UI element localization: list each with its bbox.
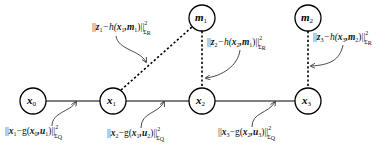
annotation-obs3: ||z3−h(x3,m2)||2ΣR [313,30,372,46]
annotation-mot2: ||x2−g(x1,u2)||2ΣQ [107,126,165,142]
pointer-obs2 [206,50,240,78]
factor-graph-diagram: x0 x1 x2 x3 m1 m2 ||z1−h(x1,m1)||2ΣR ||z… [0,0,383,152]
pointer-mot1 [52,102,76,126]
pointer-mot2 [141,102,164,128]
annotation-mot3: ||x3−g(x2,u3)||2ΣQ [218,125,276,141]
pointer-obs3 [311,45,343,66]
node-m2: m2 [295,5,321,31]
node-m1: m1 [189,5,215,31]
edge-x1-m1 [121,27,192,90]
pointer-obs1 [116,36,146,62]
node-x1: x1 [100,88,126,114]
annotation-obs2: ||z2−h(x2,m1)||2ΣR [207,35,266,51]
node-x3: x3 [295,88,321,114]
node-x2: x2 [189,88,215,114]
pointer-mot3 [252,102,275,127]
annotation-pointers [52,36,343,128]
annotation-obs1: ||z1−h(x1,m1)||2ΣR [92,20,151,36]
node-x0: x0 [20,88,46,114]
annotation-mot1: ||x1−g(x0,u1)||2ΣQ [5,124,63,140]
